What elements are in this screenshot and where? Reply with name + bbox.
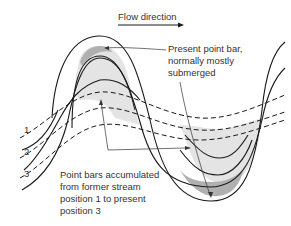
- position-1-label: 1: [24, 124, 29, 135]
- former-point-bar-lower: [180, 118, 262, 183]
- flow-direction-label: Flow direction: [118, 12, 177, 23]
- position-2-label: 2: [24, 146, 29, 157]
- position-3-label: 3: [24, 168, 29, 179]
- flow-arrow: [118, 23, 184, 28]
